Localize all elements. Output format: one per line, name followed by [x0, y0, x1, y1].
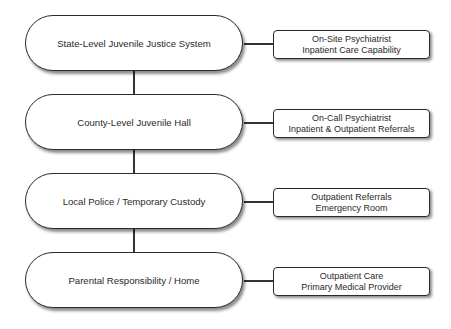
service-line: Emergency Room	[315, 203, 387, 214]
connector-services-4	[244, 280, 273, 282]
connector-services-3	[244, 201, 273, 203]
level-label: State-Level Juvenile Justice System	[57, 38, 211, 49]
services-box-county: On-Call Psychiatrist Inpatient & Outpati…	[273, 109, 430, 138]
level-node-local-police: Local Police / Temporary Custody	[25, 173, 243, 229]
connector-level-3-4	[133, 229, 135, 253]
connector-level-1-2	[133, 71, 135, 95]
connector-services-1	[244, 43, 273, 45]
service-line: Outpatient Care	[320, 271, 384, 282]
level-label: Local Police / Temporary Custody	[63, 196, 206, 207]
service-line: Primary Medical Provider	[301, 282, 402, 293]
services-box-local-police: Outpatient Referrals Emergency Room	[273, 188, 430, 217]
level-label: County-Level Juvenile Hall	[77, 117, 191, 128]
service-line: On-Call Psychiatrist	[312, 113, 391, 124]
connector-services-2	[244, 122, 273, 124]
services-box-state: On-Site Psychiatrist Inpatient Care Capa…	[273, 30, 430, 59]
level-node-state: State-Level Juvenile Justice System	[25, 15, 243, 71]
level-node-county: County-Level Juvenile Hall	[25, 94, 243, 150]
service-line: Outpatient Referrals	[311, 192, 392, 203]
service-line: Inpatient & Outpatient Referrals	[288, 124, 414, 135]
service-line: On-Site Psychiatrist	[312, 34, 391, 45]
connector-level-2-3	[133, 150, 135, 174]
level-label: Parental Responsibility / Home	[68, 275, 199, 286]
level-node-parental-home: Parental Responsibility / Home	[25, 252, 243, 308]
services-box-parental-home: Outpatient Care Primary Medical Provider	[273, 267, 430, 296]
service-line: Inpatient Care Capability	[302, 45, 401, 56]
